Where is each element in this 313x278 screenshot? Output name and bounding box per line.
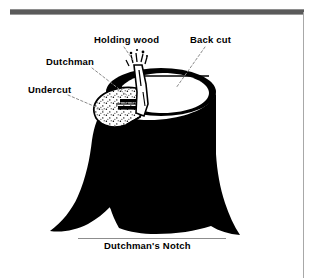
page-root: Holding wood Back cut Dutchman Undercut … [0, 0, 313, 278]
holding-wood-chips [130, 49, 148, 57]
stump-body [50, 49, 240, 235]
label-back-cut: Back cut [190, 34, 231, 45]
figure-caption: Dutchman's Notch [104, 240, 191, 251]
label-holding-wood: Holding wood [94, 34, 159, 45]
caption-rule [78, 238, 226, 239]
label-undercut: Undercut [28, 84, 71, 95]
label-dutchman: Dutchman [46, 56, 94, 67]
